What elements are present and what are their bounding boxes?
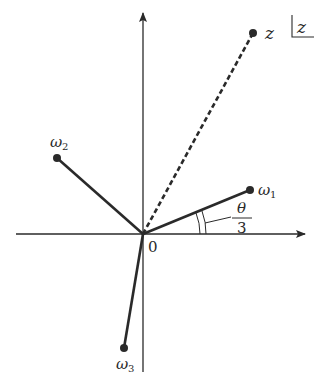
omega1-point bbox=[246, 186, 254, 194]
z-plane-label: z bbox=[296, 17, 307, 37]
omega2-subscript: 2 bbox=[62, 141, 68, 152]
omega1-symbol: ω bbox=[258, 181, 270, 199]
omega3-ray bbox=[124, 234, 143, 348]
omega3-label: ω 3 bbox=[116, 355, 134, 374]
angle-marker bbox=[196, 211, 231, 234]
angle-label: θ 3 bbox=[232, 199, 252, 237]
omega3-point bbox=[120, 344, 128, 352]
z-label: z bbox=[264, 23, 275, 43]
omega3-symbol: ω bbox=[116, 355, 128, 373]
omega2-point bbox=[53, 154, 61, 162]
omega1-ray bbox=[143, 190, 250, 234]
omega2-symbol: ω bbox=[50, 133, 62, 151]
omega2-ray bbox=[57, 158, 143, 234]
z-point bbox=[249, 29, 257, 37]
omega3-subscript: 3 bbox=[128, 363, 134, 374]
angle-numerator: θ bbox=[237, 199, 246, 217]
angle-denominator: 3 bbox=[237, 219, 247, 237]
omega1-label: ω 1 bbox=[258, 181, 276, 200]
z-plane-label-box: z bbox=[292, 15, 314, 37]
omega2-label: ω 2 bbox=[50, 133, 68, 152]
complex-plane-diagram: z θ 3 0 z ω 1 ω 2 ω 3 bbox=[0, 0, 317, 384]
omega1-subscript: 1 bbox=[270, 189, 276, 200]
origin-label: 0 bbox=[148, 238, 158, 256]
